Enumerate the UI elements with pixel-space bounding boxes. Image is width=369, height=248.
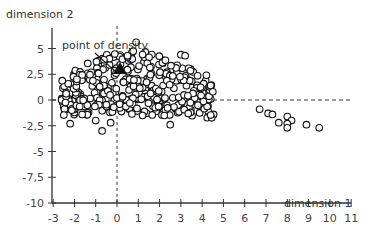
svg-text:-2,5: -2,5	[23, 120, 44, 133]
svg-text:7: 7	[263, 212, 270, 225]
svg-text:-5: -5	[33, 146, 44, 159]
annotation-label: point of density	[62, 39, 148, 52]
svg-text:9: 9	[305, 212, 312, 225]
svg-text:-2: -2	[69, 212, 80, 225]
svg-text:4: 4	[199, 212, 206, 225]
y-axis-label: dimension 2	[6, 8, 73, 21]
svg-text:2: 2	[156, 212, 163, 225]
svg-text:5: 5	[220, 212, 227, 225]
svg-text:-1: -1	[90, 212, 101, 225]
svg-text:-3: -3	[48, 212, 59, 225]
svg-text:0: 0	[114, 212, 121, 225]
svg-text:3: 3	[177, 212, 184, 225]
svg-text:-7,5: -7,5	[23, 171, 44, 184]
svg-text:6: 6	[241, 212, 248, 225]
svg-text:10: 10	[323, 212, 337, 225]
svg-text:1: 1	[135, 212, 142, 225]
svg-text:2,5: 2,5	[27, 68, 45, 81]
x-axis-label: dimension 1	[284, 197, 351, 210]
scatter-plot: -3-2-10123456789101152,50-2,5-5-7,5-10	[0, 0, 369, 248]
svg-text:0: 0	[37, 94, 44, 107]
svg-text:8: 8	[284, 212, 291, 225]
svg-text:5: 5	[37, 43, 44, 56]
data-points	[58, 39, 322, 134]
svg-text:-10: -10	[26, 197, 44, 210]
svg-text:11: 11	[344, 212, 358, 225]
